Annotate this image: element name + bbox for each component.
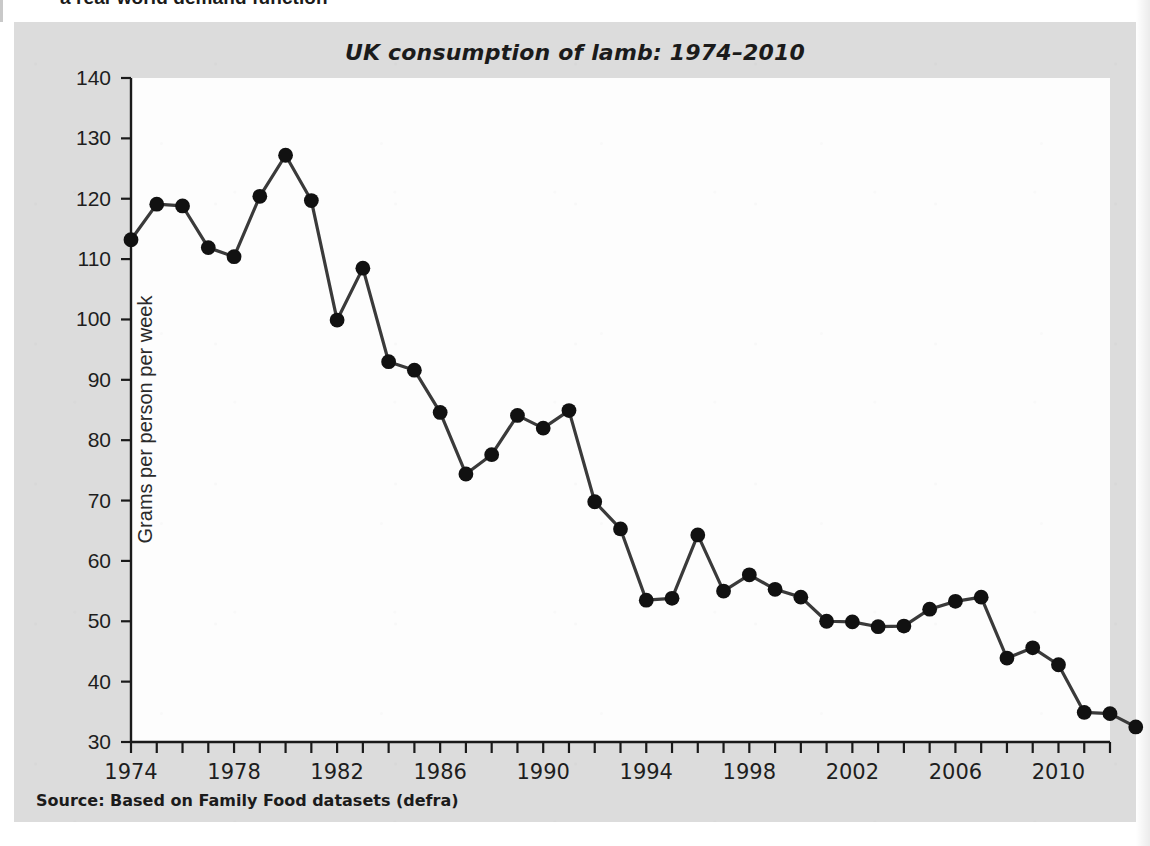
x-tick-label: 2006	[929, 760, 982, 784]
data-point	[484, 447, 499, 462]
chart-title: UK consumption of lamb: 1974–2010	[14, 40, 1136, 65]
data-point	[742, 567, 757, 582]
data-point	[459, 467, 474, 482]
x-tick-label: 1986	[413, 760, 466, 784]
x-ticks	[131, 742, 1110, 753]
y-tick-label: 30	[55, 730, 111, 754]
data-point	[381, 354, 396, 369]
plot-area: Grams per person per week 30405060708090…	[131, 78, 1110, 742]
x-tick-label: 1978	[207, 760, 260, 784]
y-ticks	[121, 78, 131, 742]
data-point	[201, 240, 216, 255]
data-point	[665, 591, 680, 606]
data-point	[1077, 705, 1092, 720]
data-point	[1025, 640, 1040, 655]
data-point	[175, 199, 190, 214]
page-right-shadow	[1136, 0, 1150, 846]
data-point	[639, 593, 654, 608]
y-tick-label: 120	[55, 187, 111, 211]
data-point	[1103, 706, 1118, 721]
y-tick-label: 140	[55, 66, 111, 90]
data-point	[613, 522, 628, 537]
data-point	[896, 619, 911, 634]
y-tick-label: 70	[55, 489, 111, 513]
data-point	[871, 619, 886, 634]
data-point	[433, 405, 448, 420]
axes	[131, 78, 1110, 742]
data-point	[330, 313, 345, 328]
data-point	[227, 249, 242, 264]
figure-container: UK consumption of lamb: 1974–2010 Grams …	[14, 22, 1136, 822]
data-point	[510, 408, 525, 423]
data-point	[1051, 657, 1066, 672]
y-tick-label: 50	[55, 609, 111, 633]
y-tick-label: 130	[55, 126, 111, 150]
data-point	[690, 528, 705, 543]
x-tick-label: 2002	[826, 760, 879, 784]
x-tick-label: 1994	[620, 760, 673, 784]
x-tick-label: 1990	[516, 760, 569, 784]
y-tick-label: 80	[55, 428, 111, 452]
data-point	[407, 363, 422, 378]
data-point	[768, 582, 783, 597]
x-tick-label: 1974	[104, 760, 157, 784]
data-point	[1128, 720, 1143, 735]
data-point	[716, 584, 731, 599]
data-point	[793, 590, 808, 605]
data-point	[845, 614, 860, 629]
data-point	[948, 594, 963, 609]
y-tick-label: 90	[55, 368, 111, 392]
page-left-rule	[0, 0, 3, 22]
line-chart-svg	[131, 78, 1110, 742]
source-note: Source: Based on Family Food datasets (d…	[36, 791, 459, 810]
data-line	[131, 155, 1136, 727]
data-point	[149, 197, 164, 212]
y-tick-label: 60	[55, 549, 111, 573]
data-point	[278, 148, 293, 163]
x-tick-label: 1998	[723, 760, 776, 784]
data-point	[252, 189, 267, 204]
clipped-page-heading: a real-world demand function	[60, 0, 328, 9]
data-point	[562, 403, 577, 418]
figure-inner: UK consumption of lamb: 1974–2010 Grams …	[14, 22, 1136, 822]
data-point	[536, 421, 551, 436]
data-point	[587, 494, 602, 509]
data-markers	[124, 148, 1144, 734]
data-point	[974, 590, 989, 605]
data-point	[1000, 651, 1015, 666]
data-point	[124, 232, 139, 247]
y-tick-label: 110	[55, 247, 111, 271]
data-point	[355, 261, 370, 276]
y-tick-label: 40	[55, 670, 111, 694]
data-point	[922, 602, 937, 617]
data-point	[304, 193, 319, 208]
x-tick-label: 2010	[1032, 760, 1085, 784]
y-tick-label: 100	[55, 307, 111, 331]
data-point	[819, 614, 834, 629]
x-tick-label: 1982	[310, 760, 363, 784]
